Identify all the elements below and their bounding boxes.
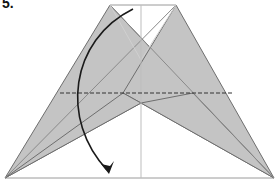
origami-diagram — [0, 0, 278, 181]
right-flap — [123, 5, 274, 178]
arrowhead-icon — [101, 161, 114, 174]
